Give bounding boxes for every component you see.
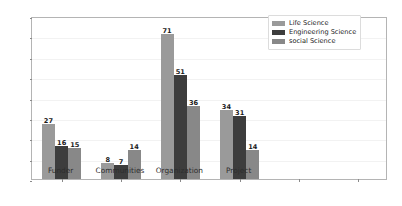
bar-value-label: 16 xyxy=(57,139,66,147)
x-tick-mark xyxy=(299,179,300,182)
y-tick-mark xyxy=(30,38,32,39)
legend-swatch-icon xyxy=(272,30,285,35)
bar xyxy=(174,75,187,179)
bar-value-label: 71 xyxy=(163,27,172,35)
y-tick-mark xyxy=(30,161,32,162)
legend-swatch-icon xyxy=(272,21,285,26)
bar-value-label: 36 xyxy=(189,99,198,107)
y-tick-mark xyxy=(30,120,32,121)
x-axis-category-label: Communities xyxy=(96,166,145,175)
gridline xyxy=(32,79,386,80)
bar-value-label: 7 xyxy=(119,158,124,166)
legend-swatch-icon xyxy=(272,39,285,44)
x-axis-category-label: Project xyxy=(226,166,251,175)
gridline xyxy=(32,59,386,60)
bar-value-label: 34 xyxy=(222,103,231,111)
gridline xyxy=(32,161,386,162)
x-tick-mark xyxy=(240,179,241,182)
legend-item-label: Engineering Science xyxy=(289,28,356,37)
legend-item[interactable]: Engineering Science xyxy=(272,28,356,37)
bar xyxy=(161,34,174,179)
gridline xyxy=(32,100,386,101)
chart-legend: Life ScienceEngineering Sciencesocial Sc… xyxy=(268,15,361,50)
x-tick-mark xyxy=(62,179,63,182)
y-tick-mark xyxy=(30,100,32,101)
x-tick-mark xyxy=(358,179,359,182)
bar-value-label: 27 xyxy=(44,117,53,125)
x-axis-category-label: Funder xyxy=(48,166,74,175)
y-tick-mark xyxy=(30,140,32,141)
bar-value-label: 51 xyxy=(176,68,185,76)
bar-value-label: 14 xyxy=(130,143,139,151)
bar-chart-figure: 2716158714715136343114 01020304050607080… xyxy=(0,0,402,206)
legend-item-label: Life Science xyxy=(289,19,329,28)
legend-item[interactable]: Life Science xyxy=(272,19,356,28)
bar-value-label: 8 xyxy=(106,156,111,164)
x-tick-mark xyxy=(121,179,122,182)
legend-item-label: social Science xyxy=(289,37,335,46)
gridline xyxy=(32,140,386,141)
y-tick-mark xyxy=(30,181,32,182)
x-axis-category-label: Organization xyxy=(156,166,203,175)
legend-item[interactable]: social Science xyxy=(272,37,356,46)
y-tick-mark xyxy=(30,59,32,60)
bar-value-label: 15 xyxy=(70,141,79,149)
bar-value-label: 14 xyxy=(248,143,257,151)
bar-value-label: 31 xyxy=(235,109,244,117)
x-tick-mark xyxy=(180,179,181,182)
gridline xyxy=(32,120,386,121)
y-tick-mark xyxy=(30,18,32,19)
y-tick-mark xyxy=(30,79,32,80)
